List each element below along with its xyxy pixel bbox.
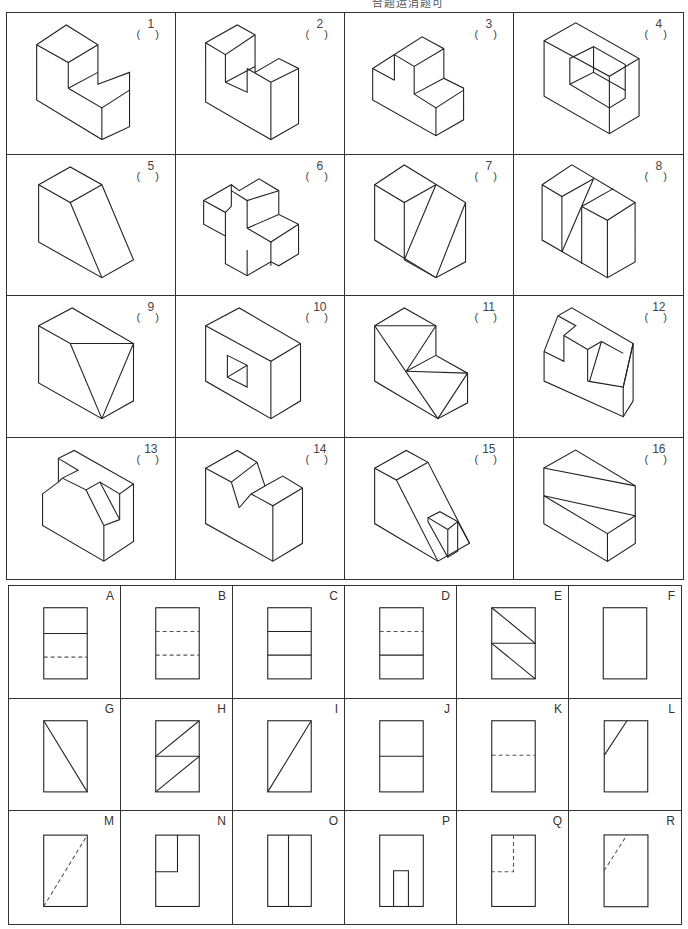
- view-cell-h: H: [121, 699, 233, 812]
- view-drawing-a: [9, 586, 120, 698]
- pictorial-cell-3: 3( ): [345, 13, 514, 155]
- view-cell-i: I: [233, 699, 345, 812]
- problem-number-16: 16( ): [645, 444, 673, 464]
- view-label-m: M: [104, 814, 114, 828]
- view-cell-l: L: [569, 699, 681, 812]
- view-label-q: Q: [553, 814, 562, 828]
- view-drawing-i: [233, 699, 344, 811]
- pictorial-cell-6: 6( ): [176, 155, 345, 297]
- view-drawing-p: [345, 811, 456, 924]
- pictorial-cell-1: 1( ): [7, 13, 176, 155]
- view-label-c: C: [329, 589, 338, 603]
- problem-number-15: 15( ): [475, 444, 503, 464]
- problem-number-1: 1( ): [137, 19, 165, 39]
- view-drawing-h: [121, 699, 232, 811]
- answer-blank[interactable]: ( ): [306, 171, 334, 181]
- answer-blank[interactable]: ( ): [475, 312, 503, 322]
- problem-number-7: 7( ): [475, 161, 503, 181]
- problem-number-5: 5( ): [137, 161, 165, 181]
- view-cell-g: G: [9, 699, 121, 812]
- view-cell-j: J: [345, 699, 457, 812]
- view-label-a: A: [106, 589, 114, 603]
- view-cell-k: K: [457, 699, 569, 812]
- answer-blank[interactable]: ( ): [306, 29, 334, 39]
- view-cell-r: R: [569, 811, 681, 924]
- view-drawing-k: [457, 699, 568, 811]
- view-drawing-o: [233, 811, 344, 924]
- view-drawing-l: [569, 699, 681, 811]
- view-label-b: B: [218, 589, 226, 603]
- problem-number-4: 4( ): [645, 19, 673, 39]
- problem-number-11: 11( ): [475, 302, 503, 322]
- answer-blank[interactable]: ( ): [306, 312, 334, 322]
- view-drawing-g: [9, 699, 120, 811]
- header-partial-text: 合题运消题可: [372, 0, 444, 10]
- pictorial-cell-13: 13( ): [7, 438, 176, 580]
- view-drawing-q: [457, 811, 568, 924]
- view-drawing-c: [233, 586, 344, 698]
- answer-blank[interactable]: ( ): [137, 29, 165, 39]
- problem-number-6: 6( ): [306, 161, 334, 181]
- view-cell-e: E: [457, 586, 569, 699]
- pictorial-cell-10: 10( ): [176, 296, 345, 438]
- answer-blank[interactable]: ( ): [137, 454, 165, 464]
- answer-blank[interactable]: ( ): [137, 171, 165, 181]
- view-cell-d: D: [345, 586, 457, 699]
- problem-number-13: 13( ): [137, 444, 165, 464]
- view-label-f: F: [668, 589, 675, 603]
- pictorial-cell-16: 16( ): [514, 438, 683, 580]
- view-label-r: R: [666, 814, 675, 828]
- view-cell-c: C: [233, 586, 345, 699]
- problem-number-9: 9( ): [137, 302, 165, 322]
- pictorial-cell-5: 5( ): [7, 155, 176, 297]
- view-label-h: H: [217, 702, 226, 716]
- pictorial-cell-2: 2( ): [176, 13, 345, 155]
- pictorial-cell-8: 8( ): [514, 155, 683, 297]
- pictorial-cell-14: 14( ): [176, 438, 345, 580]
- problem-number-10: 10( ): [306, 302, 334, 322]
- view-label-l: L: [668, 702, 675, 716]
- view-cell-n: N: [121, 811, 233, 924]
- view-label-o: O: [329, 814, 338, 828]
- answer-blank[interactable]: ( ): [475, 29, 503, 39]
- view-cell-m: M: [9, 811, 121, 924]
- pictorial-cell-15: 15( ): [345, 438, 514, 580]
- view-label-k: K: [554, 702, 562, 716]
- pictorial-cell-4: 4( ): [514, 13, 683, 155]
- problem-number-14: 14( ): [306, 444, 334, 464]
- pictorial-cell-7: 7( ): [345, 155, 514, 297]
- view-cell-q: Q: [457, 811, 569, 924]
- view-label-n: N: [217, 814, 226, 828]
- view-cell-o: O: [233, 811, 345, 924]
- pictorial-cell-12: 12( ): [514, 296, 683, 438]
- view-label-e: E: [554, 589, 562, 603]
- pictorial-cell-11: 11( ): [345, 296, 514, 438]
- view-drawing-e: [457, 586, 568, 698]
- view-cell-b: B: [121, 586, 233, 699]
- view-label-d: D: [441, 589, 450, 603]
- answer-blank[interactable]: ( ): [645, 312, 673, 322]
- problem-number-2: 2( ): [306, 19, 334, 39]
- view-label-i: I: [335, 702, 338, 716]
- problem-number-12: 12( ): [645, 302, 673, 322]
- pictorial-cell-9: 9( ): [7, 296, 176, 438]
- view-label-j: J: [444, 702, 450, 716]
- problem-number-3: 3( ): [475, 19, 503, 39]
- problem-number-8: 8( ): [645, 161, 673, 181]
- answer-blank[interactable]: ( ): [645, 29, 673, 39]
- view-drawing-b: [121, 586, 232, 698]
- view-drawing-j: [345, 699, 456, 811]
- view-cell-f: F: [569, 586, 681, 699]
- view-drawing-f: [569, 586, 681, 698]
- view-label-g: G: [105, 702, 114, 716]
- answer-blank[interactable]: ( ): [645, 454, 673, 464]
- view-drawing-d: [345, 586, 456, 698]
- answer-blank[interactable]: ( ): [645, 171, 673, 181]
- view-drawing-n: [121, 811, 232, 924]
- answer-blank[interactable]: ( ): [137, 312, 165, 322]
- answer-blank[interactable]: ( ): [475, 171, 503, 181]
- answer-blank[interactable]: ( ): [306, 454, 334, 464]
- answer-blank[interactable]: ( ): [475, 454, 503, 464]
- view-cell-p: P: [345, 811, 457, 924]
- pictorial-grid: 1( ) 2( ) 3( ): [6, 12, 684, 580]
